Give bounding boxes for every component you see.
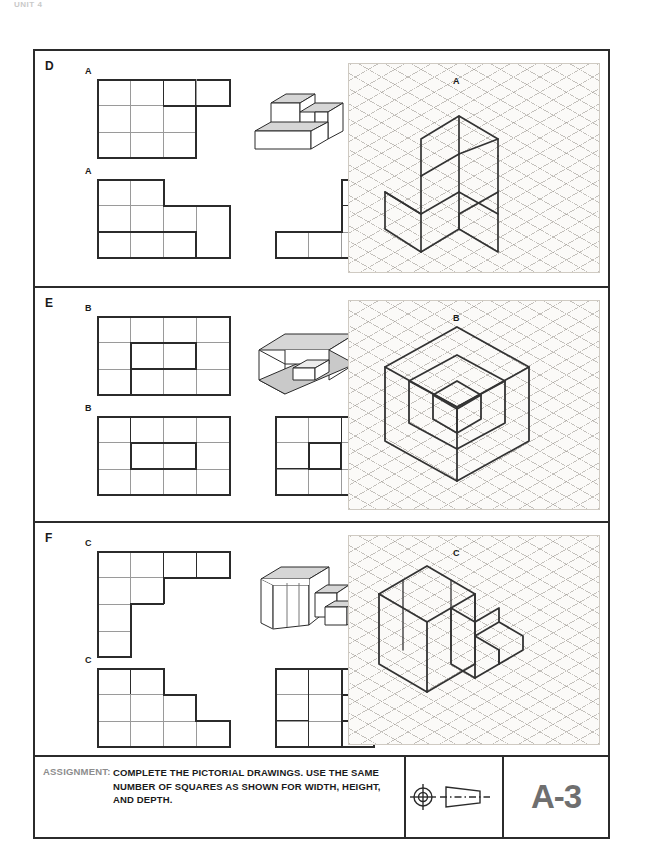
- panel-d-top-view-label: A: [85, 66, 92, 76]
- panel-d-pictorial: [253, 81, 363, 161]
- panel-e-front-view-label: B: [85, 403, 92, 413]
- panel-d-top-view: A: [97, 79, 231, 159]
- panel-f: F C: [35, 521, 608, 756]
- panel-e-front-view: B: [97, 416, 231, 496]
- sheet-number: A-3: [531, 778, 581, 816]
- panel-e-top-view: B: [97, 316, 231, 396]
- third-angle-projection-symbol: [406, 757, 502, 837]
- panel-d-front-view-label: A: [85, 166, 92, 176]
- panel-d-isometric-drawing: [349, 64, 601, 274]
- panel-f-iso-part-label: C: [453, 548, 460, 558]
- assignment-area: ASSIGNMENT: COMPLETE THE PICTORIAL DRAWI…: [35, 757, 404, 837]
- projection-symbol-cell: [404, 757, 502, 837]
- panel-d-isometric-grid[interactable]: isometric-stepped-block A: [348, 63, 600, 273]
- panel-d: D A: [35, 51, 608, 286]
- worksheet-sheet: D A: [33, 49, 610, 839]
- panel-f-top-view: C: [97, 551, 231, 658]
- panel-letter-f: F: [45, 531, 52, 545]
- panel-e-iso-part-label: B: [453, 313, 460, 323]
- panel-letter-d: D: [45, 59, 54, 73]
- panel-d-front-view: A: [97, 179, 231, 259]
- page-header-text: UNIT 4: [14, 0, 42, 9]
- panel-f-isometric-drawing: [349, 536, 601, 746]
- title-block: ASSIGNMENT: COMPLETE THE PICTORIAL DRAWI…: [35, 755, 608, 837]
- panel-letter-e: E: [45, 296, 53, 310]
- panel-e-isometric-drawing: [349, 301, 601, 511]
- panel-f-front-view: C: [97, 668, 231, 748]
- panel-f-front-view-label: C: [85, 655, 92, 665]
- assignment-text: COMPLETE THE PICTORIAL DRAWINGS. USE THE…: [113, 766, 381, 807]
- panel-f-top-view-label: C: [85, 538, 92, 548]
- assignment-label: ASSIGNMENT:: [43, 766, 111, 777]
- panel-e: E B: [35, 286, 608, 521]
- panel-f-pictorial: [253, 551, 363, 637]
- sheet-number-cell: A-3: [502, 757, 608, 837]
- panel-e-top-view-label: B: [85, 303, 92, 313]
- panel-e-pictorial: [253, 318, 363, 398]
- panel-d-iso-part-label: A: [453, 76, 460, 86]
- panel-f-isometric-grid[interactable]: C: [348, 535, 600, 745]
- panel-e-isometric-grid[interactable]: B: [348, 300, 600, 510]
